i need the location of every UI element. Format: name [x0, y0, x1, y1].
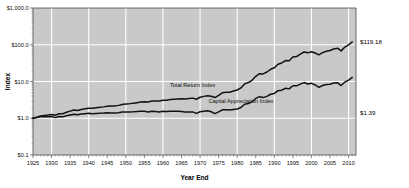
x-axis-tick-label: 1945	[101, 160, 113, 166]
x-axis-tick-label: 1925	[27, 160, 39, 166]
x-axis-tick-label: 2005	[324, 160, 336, 166]
y-axis-tick-label: $1.0	[18, 115, 29, 121]
x-axis-tick-label: 1990	[268, 160, 280, 166]
y-axis-title: Index	[4, 73, 11, 91]
x-axis-tick-label: 2010	[342, 160, 354, 166]
x-axis-tick-label: 1975	[212, 160, 224, 166]
x-axis-tick-label: 1995	[287, 160, 299, 166]
y-axis-tick-label: $10.0	[15, 79, 29, 85]
x-axis-tick-label: 1985	[250, 160, 262, 166]
index-growth-chart: $0.1$1.0$10.0$100.0$1,000.0 192519301935…	[0, 0, 409, 188]
chart-container: $0.1$1.0$10.0$100.0$1,000.0 192519301935…	[0, 0, 409, 188]
x-axis-tick-label: 1950	[120, 160, 132, 166]
x-axis-tick-label: 1930	[45, 160, 57, 166]
x-axis-tick-label: 1940	[82, 160, 94, 166]
x-axis-tick-label: 2000	[305, 160, 317, 166]
end-label-capital-appreciation-index: $1.39	[360, 109, 376, 116]
annotation-capital-appreciation-index: Capital Appreciation Index	[208, 98, 273, 104]
y-axis-tick-label: $100.0	[11, 42, 28, 48]
x-axis-tick-label: 1965	[175, 160, 187, 166]
y-axis-tick-label: $0.1	[18, 152, 29, 158]
x-axis-tick-label: 1960	[157, 160, 169, 166]
end-label-total-return-index: $119.18	[360, 38, 382, 45]
x-axis-tick-label: 1980	[231, 160, 243, 166]
x-axis-tick-label: 1970	[194, 160, 206, 166]
x-axis-tick-label: 1935	[64, 160, 76, 166]
y-axis-tick-label: $1,000.0	[7, 5, 29, 11]
annotation-total-return-index: Total Return Index	[170, 82, 216, 88]
x-axis-tick-label: 1955	[138, 160, 150, 166]
x-axis-title: Year End	[180, 174, 208, 181]
